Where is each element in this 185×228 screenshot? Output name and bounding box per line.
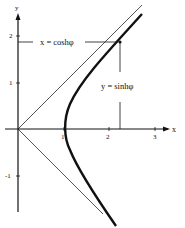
y-axis-label: y: [15, 4, 19, 12]
asymptote-y-eq-x: [18, 5, 142, 129]
y-tick-1: 1: [9, 79, 13, 87]
x-tick-3: 3: [153, 133, 157, 141]
curve-point: [118, 40, 121, 43]
y-tick-2: 2: [9, 32, 13, 40]
x-equation-label: x = coshφ: [40, 37, 74, 47]
asymptote-y-eq-neg-x: [18, 129, 103, 214]
hyperbola-curve: [65, 14, 142, 226]
y-equation-label: y = sinhφ: [101, 81, 133, 91]
x-axis-arrow-icon: [163, 127, 170, 132]
hyperbola-diagram: 1 2 3 2 1 -1 x y x = coshφ y = sinhφ: [0, 0, 185, 228]
y-tick-neg1: -1: [5, 172, 11, 180]
y-axis-arrow-icon: [16, 13, 21, 20]
x-axis-label: x: [172, 125, 176, 134]
x-tick-2: 2: [106, 133, 110, 141]
